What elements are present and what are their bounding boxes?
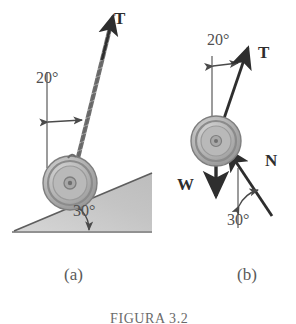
angle-label-incline-a: 30° bbox=[73, 203, 95, 219]
panel-b-graphics bbox=[191, 48, 272, 228]
wheel-b bbox=[191, 116, 241, 166]
figure-caption: FIGURA 3.2 bbox=[110, 312, 188, 324]
angle-arc-cord-a bbox=[48, 120, 82, 122]
tension-label-b: T bbox=[258, 44, 269, 61]
figure-3-2: T 20° 30° 20° T W N 30° (a) (b) FIGURA 3… bbox=[0, 0, 296, 324]
panel-a-graphics bbox=[12, 16, 152, 232]
panel-label-a: (a) bbox=[64, 266, 83, 283]
angle-label-normal-b: 30° bbox=[227, 212, 249, 228]
weight-label-b: W bbox=[177, 176, 194, 193]
tension-arrow-a bbox=[102, 16, 113, 60]
normal-label-b: N bbox=[265, 152, 277, 169]
angle-arc-tension-b bbox=[213, 63, 238, 66]
angle-label-cord-a: 20° bbox=[36, 70, 58, 86]
panel-label-b: (b) bbox=[237, 266, 257, 283]
angle-label-tension-b: 20° bbox=[207, 32, 229, 48]
tension-label-a: T bbox=[114, 10, 125, 27]
